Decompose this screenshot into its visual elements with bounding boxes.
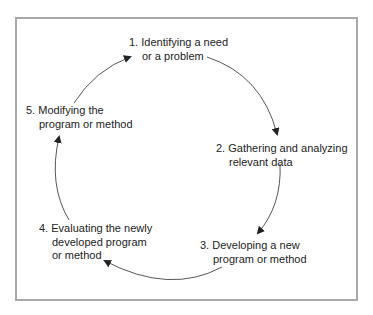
step-text-cont: or a problem (129, 50, 228, 64)
step-number: 2. (216, 142, 225, 154)
arrow-5-to-1 (74, 57, 130, 103)
step-text: Gathering and analyzing (228, 142, 347, 154)
step-text-cont: developed program (39, 236, 152, 250)
step-number: 3. (200, 239, 209, 251)
step-5-label: 5. Modifying the program or method (26, 104, 133, 131)
step-text-cont: program or method (200, 253, 307, 267)
arrow-4-to-5 (55, 137, 69, 220)
step-number: 4. (39, 222, 48, 234)
arrow-1-to-2 (207, 57, 277, 134)
step-1-label: 1. Identifying a need or a problem (129, 36, 228, 63)
step-2-label: 2. Gathering and analyzing relevant data (216, 142, 348, 169)
step-text: Evaluating the newly (51, 222, 152, 234)
step-text: Identifying a need (141, 36, 228, 48)
step-text-cont: relevant data (216, 156, 348, 170)
step-number: 5. (26, 104, 35, 116)
step-text: Modifying the (38, 104, 103, 116)
arrow-2-to-3 (258, 164, 280, 233)
step-text-cont: program or method (26, 118, 133, 132)
step-text: Developing a new (212, 239, 299, 251)
step-text-cont: or method (39, 249, 152, 263)
step-number: 1. (129, 36, 138, 48)
step-3-label: 3. Developing a new program or method (200, 239, 307, 266)
step-4-label: 4. Evaluating the newly developed progra… (39, 222, 152, 263)
